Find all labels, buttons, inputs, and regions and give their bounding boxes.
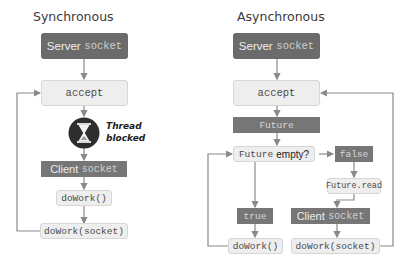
future-empty-code: Future <box>239 149 273 160</box>
thread-label-line2: blocked <box>106 132 145 144</box>
sync-loop-back <box>17 93 40 231</box>
sync-dowork-socket-box: doWork(socket) <box>40 223 128 239</box>
async-true-box: true <box>237 208 273 224</box>
async-dowork-box: doWork() <box>228 238 283 254</box>
thread-label-line1: Thread <box>106 120 145 132</box>
async-client-code: socket <box>328 211 364 222</box>
async-future-box: Future <box>233 117 320 133</box>
sync-client-socket-box: Client socket <box>41 161 127 177</box>
future-empty-text: empty? <box>276 149 309 160</box>
async-server-socket-box: Server socket <box>233 33 320 59</box>
sync-accept-box: accept <box>41 80 128 106</box>
async-client-label: Client <box>297 210 325 222</box>
sync-server-code: socket <box>84 40 122 52</box>
async-title: Asynchronous <box>237 9 325 24</box>
async-client-socket-box: Client socket <box>291 208 370 224</box>
async-arrow-read-client <box>337 194 354 207</box>
sync-title: Synchronous <box>33 9 114 24</box>
hourglass-icon <box>68 117 100 149</box>
async-server-code: socket <box>276 40 314 52</box>
thread-blocked-label: Thread blocked <box>106 120 145 144</box>
async-false-box: false <box>335 146 373 162</box>
sync-server-socket-box: Server socket <box>41 33 128 59</box>
async-dowork-socket-box: doWork(socket) <box>291 238 380 254</box>
async-future-empty-box: Future empty? <box>233 146 315 162</box>
async-loop-dowork <box>208 154 232 246</box>
sync-client-code: socket <box>82 164 118 175</box>
async-accept-box: accept <box>233 80 320 106</box>
sync-dowork-box: doWork() <box>56 190 112 206</box>
async-future-read-box: Future.read <box>327 178 381 194</box>
sync-client-label: Client <box>50 163 78 175</box>
async-server-label: Server <box>239 40 273 52</box>
sync-server-label: Server <box>47 40 81 52</box>
